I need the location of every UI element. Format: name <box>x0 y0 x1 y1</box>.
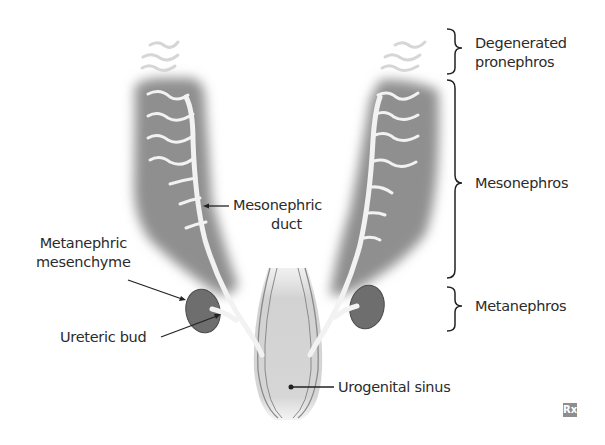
label-degenerated-pronephros: Degenerated pronephros <box>475 34 567 72</box>
mesonephros-brace <box>447 80 462 278</box>
pronephros-brace <box>447 29 462 74</box>
left-pronephros-tubules <box>142 42 178 70</box>
metanephric-mesenchyme-pointer <box>128 280 182 299</box>
braces <box>447 29 462 331</box>
label-ureteric-bud: Ureteric bud <box>60 328 146 347</box>
right-pronephros-tubules <box>382 42 425 70</box>
urogenital-sinus <box>254 268 322 420</box>
label-line: Metanephric <box>36 234 131 253</box>
label-line: pronephros <box>475 53 567 72</box>
left-mesonephros-lobe <box>134 78 238 295</box>
label-urogenital-sinus: Urogenital sinus <box>338 378 450 397</box>
label-line: Mesonephric <box>233 196 322 215</box>
label-mesonephros: Mesonephros <box>475 174 568 193</box>
rx-logo-icon: Rx <box>563 403 577 417</box>
label-metanephric-mesenchyme: Metanephric mesenchyme <box>36 234 131 272</box>
label-line: duct <box>233 215 322 234</box>
metanephros-brace <box>447 287 462 331</box>
label-mesonephric-duct: Mesonephric duct <box>233 196 322 234</box>
label-line: Degenerated <box>475 34 567 53</box>
label-metanephros: Metanephros <box>475 297 566 316</box>
label-line: mesenchyme <box>36 253 131 272</box>
